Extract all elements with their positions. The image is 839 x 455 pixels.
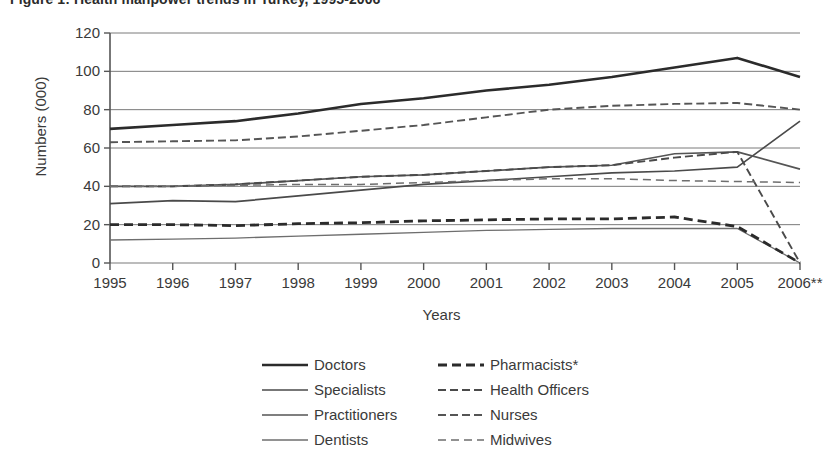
legend-item-pharmacists[interactable]: Pharmacists* — [438, 352, 589, 377]
legend-label: Dentists — [314, 432, 368, 447]
chart-legend: DoctorsSpecialistsPractitionersDentists … — [262, 352, 682, 452]
legend-swatch — [262, 383, 308, 397]
legend-item-practitioners[interactable]: Practitioners — [262, 402, 397, 427]
y-axis-tick-label: 0 — [56, 255, 100, 270]
legend-label: Doctors — [314, 357, 366, 372]
legend-swatch-line — [438, 383, 484, 397]
x-axis-title-text: Years — [379, 306, 461, 323]
x-axis-tick-label: 2006** — [760, 275, 839, 290]
y-axis-tick-label: 60 — [56, 140, 100, 155]
y-axis-title: Numbers (000) — [32, 47, 49, 207]
series-line-dentists — [110, 229, 800, 264]
legend-item-doctors[interactable]: Doctors — [262, 352, 397, 377]
legend-item-midwives[interactable]: Midwives — [438, 427, 589, 452]
legend-swatch-line — [262, 433, 308, 447]
legend-item-health-officers[interactable]: Health Officers — [438, 377, 589, 402]
legend-item-dentists[interactable]: Dentists — [262, 427, 397, 452]
legend-swatch — [438, 408, 484, 422]
legend-label: Specialists — [314, 382, 386, 397]
y-axis-tick-label: 100 — [56, 63, 100, 78]
legend-swatch — [438, 433, 484, 447]
legend-label: Health Officers — [490, 382, 589, 397]
x-axis-title: Years — [0, 306, 839, 323]
series-line-specialists — [110, 121, 800, 203]
y-axis-tick-label: 80 — [56, 102, 100, 117]
legend-label: Nurses — [490, 407, 538, 422]
legend-swatch-line — [262, 383, 308, 397]
legend-column-right: Pharmacists*Health OfficersNursesMidwive… — [438, 352, 589, 452]
legend-label: Pharmacists* — [490, 357, 578, 372]
legend-item-specialists[interactable]: Specialists — [262, 377, 397, 402]
legend-label: Practitioners — [314, 407, 397, 422]
legend-swatch-line — [262, 408, 308, 422]
legend-swatch-line — [438, 358, 484, 372]
legend-column-left: DoctorsSpecialistsPractitionersDentists — [262, 352, 397, 452]
legend-swatch-line — [262, 358, 308, 372]
y-axis-tick-label: 20 — [56, 217, 100, 232]
series-line-pharmacists — [110, 217, 800, 263]
series-line-doctors — [110, 58, 800, 129]
legend-swatch — [438, 358, 484, 372]
legend-item-nurses[interactable]: Nurses — [438, 402, 589, 427]
y-axis-tick-label: 40 — [56, 178, 100, 193]
y-axis-tick-label: 120 — [56, 25, 100, 40]
legend-swatch-line — [438, 433, 484, 447]
legend-swatch-line — [438, 408, 484, 422]
legend-label: Midwives — [490, 432, 552, 447]
legend-swatch — [262, 433, 308, 447]
legend-swatch — [262, 358, 308, 372]
legend-swatch — [438, 383, 484, 397]
chart-plot-area: Numbers (000) 02040608010012019951996199… — [0, 0, 839, 340]
legend-swatch — [262, 408, 308, 422]
series-line-health-officers — [110, 152, 800, 263]
